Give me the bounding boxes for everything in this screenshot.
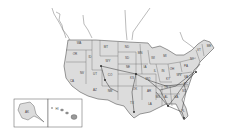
hawaii-inset — [48, 99, 82, 127]
state-label-pa: PA — [184, 64, 188, 68]
state-label-ok: OK — [133, 87, 137, 91]
alaska-inset — [14, 99, 48, 127]
state-label-wy: WY — [106, 59, 111, 63]
state-label-va: VA — [184, 75, 188, 79]
state-label-ms: MS — [156, 95, 161, 99]
state-label-nv: NV — [80, 71, 84, 75]
state-label-oh: OH — [170, 67, 175, 71]
state-label-in: IN — [162, 69, 165, 73]
state-label-ky: KY — [166, 77, 170, 81]
state-label-ne: NE — [126, 65, 130, 69]
state-label-wa: WA — [77, 41, 82, 45]
state-label-mn: MN — [138, 51, 143, 55]
state-label-ny: NY — [190, 57, 194, 61]
state-label-co: CO — [108, 73, 113, 77]
state-label-tn: TN — [164, 85, 168, 89]
state-label-ak: AK — [25, 110, 29, 114]
state-label-mt: MT — [104, 45, 108, 49]
state-label-mi: MI — [163, 54, 166, 58]
state-label-ca: CA — [70, 79, 74, 83]
state-label-nm: NM — [108, 89, 113, 93]
state-label-la: LA — [148, 102, 152, 106]
state-label-tx: TX — [130, 101, 134, 105]
state-label-al: AL — [164, 95, 168, 99]
us-map: WAORIDMTNDSDMNWIMIWYNVCAUTCONEKSIAILINOH… — [0, 0, 225, 139]
state-label-vt: VT — [197, 48, 201, 52]
state-label-il: IL — [154, 69, 157, 73]
state-label-ia: IA — [144, 65, 147, 69]
state-label-ut: UT — [93, 72, 97, 76]
state-label-mo: MO — [146, 77, 151, 81]
state-label-ks: KS — [130, 76, 134, 80]
state-label-fl: FL — [181, 109, 185, 113]
state-label-az: AZ — [93, 88, 97, 92]
state-label-wi: WI — [151, 56, 155, 60]
state-label-hi: HI — [56, 107, 59, 111]
state-label-ga: GA — [174, 95, 178, 99]
state-label-me: ME — [207, 44, 212, 48]
state-label-wv: WV — [177, 73, 182, 77]
